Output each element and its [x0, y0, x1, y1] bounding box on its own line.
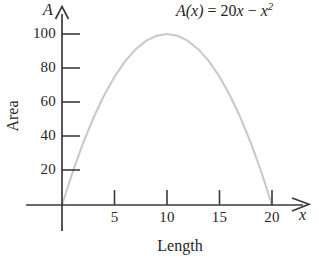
y-tick-label-20: 20: [10, 162, 56, 177]
x-tick-label-5: 5: [100, 210, 130, 225]
equation-exponent: 2: [268, 0, 273, 12]
y-tick-label-80: 80: [10, 60, 56, 75]
x-tick-label-20: 20: [257, 210, 287, 225]
equation-linear-var: x: [237, 2, 244, 19]
parabola-figure: A x A(x) = 20x − x2 100 80 60 40 20 5 10…: [0, 0, 319, 266]
x-tick-label-15: 15: [205, 210, 235, 225]
y-axis-symbol: A: [43, 2, 53, 18]
parabola-curve: [62, 34, 272, 205]
equation-annotation: A(x) = 20x − x2: [176, 3, 273, 19]
equation-coefficient: 20: [221, 2, 237, 19]
x-axis-title: Length: [140, 238, 220, 254]
equation-equals: =: [208, 2, 217, 19]
y-axis-title: Area: [5, 86, 21, 146]
equation-quad-var: x: [261, 2, 268, 19]
equation-minus: −: [248, 2, 257, 19]
equation-close-paren: ): [198, 2, 203, 19]
equation-func-name: A: [176, 2, 186, 19]
y-tick-label-100: 100: [10, 26, 56, 41]
x-tick-label-10: 10: [152, 210, 182, 225]
x-axis-symbol: x: [299, 207, 306, 223]
